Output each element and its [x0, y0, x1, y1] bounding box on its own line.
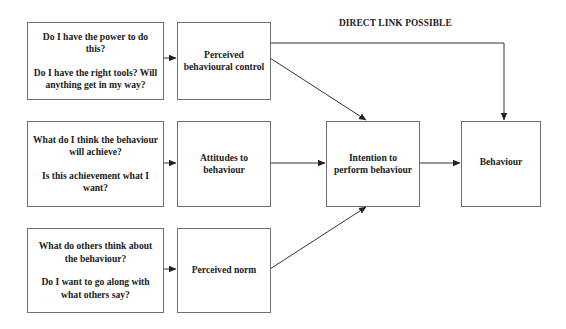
attitudes-to-behaviour-box: Attitudes to behaviour: [177, 121, 271, 207]
attitude-question-2: Is this achievement what I want?: [32, 170, 159, 195]
norm-question-1: What do others think about the behaviour…: [32, 240, 159, 265]
direct-link-label: DIRECT LINK POSSIBLE: [339, 18, 452, 28]
control-questions-box: Do I have the power to do this? Do I hav…: [27, 22, 164, 100]
arrow-norm-to-intention: [270, 207, 366, 269]
intention-label: Intention to perform behaviour: [333, 152, 413, 177]
control-question-1: Do I have the power to do this?: [32, 31, 159, 56]
behaviour-box: Behaviour: [461, 121, 541, 207]
behaviour-label: Behaviour: [480, 156, 523, 169]
intention-box: Intention to perform behaviour: [326, 121, 420, 207]
tpb-diagram: DIRECT LINK POSSIBLE Do I have the power…: [0, 0, 566, 329]
perceived-norm-box: Perceived norm: [177, 228, 271, 313]
pbc-label: Perceived behavioural control: [182, 49, 266, 74]
norm-label: Perceived norm: [192, 264, 257, 277]
attitude-question-1: What do I think the behaviour will achie…: [32, 134, 159, 159]
norm-question-2: Do I want to go along with what others s…: [32, 276, 159, 301]
arrow-pbc-to-intention: [270, 58, 366, 120]
norm-questions-box: What do others think about the behaviour…: [27, 228, 164, 313]
attitudes-label: Attitudes to behaviour: [182, 152, 266, 177]
arrow-direct-link: [270, 43, 504, 120]
perceived-behavioural-control-box: Perceived behavioural control: [177, 22, 271, 100]
control-question-2: Do I have the right tools? Will anything…: [32, 67, 159, 92]
attitude-questions-box: What do I think the behaviour will achie…: [27, 121, 164, 207]
